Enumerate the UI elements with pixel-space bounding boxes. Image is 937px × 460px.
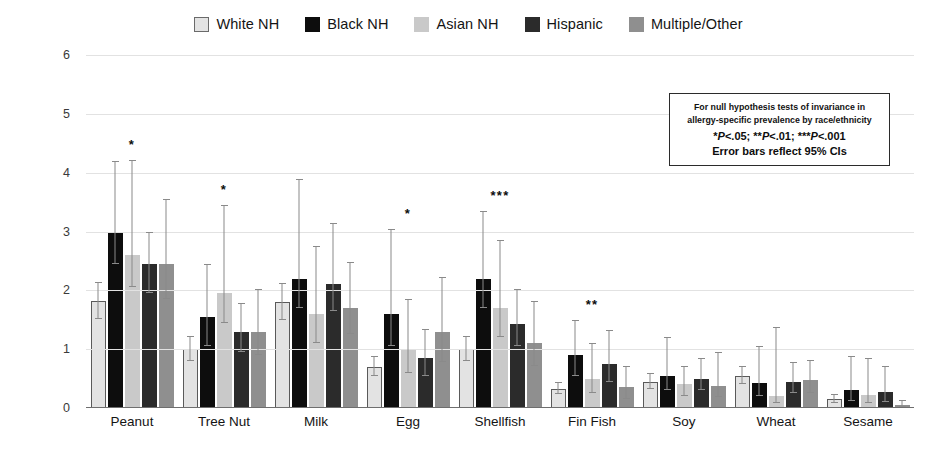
error-bar <box>282 283 283 319</box>
error-bar-cap-bottom <box>865 402 872 403</box>
error-bar-cap-top <box>221 205 228 206</box>
error-bar-cap-top <box>204 264 211 265</box>
error-bar-cap-bottom <box>589 392 596 393</box>
error-bar-cap-top <box>790 362 797 363</box>
error-bar <box>776 327 777 403</box>
error-bar-cap-top <box>129 160 136 161</box>
y-axis-tick-label: 3 <box>63 225 70 239</box>
legend-label: Asian NH <box>436 16 498 32</box>
legend-item-black-nh[interactable]: Black NH <box>305 16 388 32</box>
error-bar <box>500 240 501 337</box>
error-bar-cap-bottom <box>647 388 654 389</box>
error-bar-cap-bottom <box>95 318 102 319</box>
x-axis-label-tree-nut: Tree Nut <box>178 414 270 444</box>
y-axis-tick-label: 1 <box>63 342 70 356</box>
error-bar-cap-top <box>664 337 671 338</box>
legend-item-hispanic[interactable]: Hispanic <box>525 16 603 32</box>
error-bar-cap-top <box>514 289 521 290</box>
error-bar <box>885 366 886 402</box>
error-bar-cap-top <box>112 161 119 162</box>
error-bar-cap-top <box>555 382 562 383</box>
y-axis-tick-label: 2 <box>63 283 70 297</box>
error-bar-cap-bottom <box>347 333 354 334</box>
error-bar <box>408 299 409 373</box>
error-bar-cap-bottom <box>463 360 470 361</box>
annotation-line-1: For null hypothesis tests of invariance … <box>676 101 883 114</box>
error-bar <box>718 352 719 397</box>
error-bar-cap-bottom <box>807 392 814 393</box>
error-bar-cap-top <box>807 360 814 361</box>
error-bar-cap-bottom <box>715 396 722 397</box>
error-bar-cap-bottom <box>555 393 562 394</box>
error-bar <box>132 160 133 288</box>
error-bar-cap-bottom <box>790 392 797 393</box>
error-bar-cap-bottom <box>606 381 613 382</box>
error-bar <box>207 264 208 346</box>
error-bar <box>166 199 167 299</box>
error-bar-cap-top <box>238 303 245 304</box>
x-axis-label-fin-fish: Fin Fish <box>546 414 638 444</box>
error-bar-cap-top <box>480 211 487 212</box>
error-bar <box>558 382 559 395</box>
error-bar-cap-top <box>882 366 889 367</box>
x-axis-label-peanut: Peanut <box>86 414 178 444</box>
error-bar <box>149 232 150 294</box>
error-bar-cap-bottom <box>572 375 579 376</box>
error-bar-cap-top <box>531 301 538 302</box>
error-bar-cap-bottom <box>112 263 119 264</box>
error-bar-cap-top <box>279 283 286 284</box>
legend-swatch-asian-nh <box>414 17 429 32</box>
error-bar <box>684 366 685 397</box>
error-bar-cap-top <box>899 400 906 401</box>
error-bar-cap-top <box>371 356 378 357</box>
error-bar-cap-bottom <box>255 354 262 355</box>
error-bar-cap-top <box>463 336 470 337</box>
error-bar-cap-bottom <box>831 402 838 403</box>
error-bar-cap-top <box>715 352 722 353</box>
legend-item-asian-nh[interactable]: Asian NH <box>414 16 498 32</box>
legend-item-white-nh[interactable]: White NH <box>194 16 279 32</box>
error-bar-cap-bottom <box>313 342 320 343</box>
error-bar <box>868 358 869 403</box>
error-bar <box>258 289 259 355</box>
error-bar <box>425 329 426 376</box>
x-axis-label-egg: Egg <box>362 414 454 444</box>
grouped-bar-chart: White NHBlack NHAsian NHHispanicMultiple… <box>0 0 937 460</box>
x-axis-label-soy: Soy <box>638 414 730 444</box>
legend-swatch-black-nh <box>305 17 320 32</box>
error-bar-cap-top <box>439 277 446 278</box>
legend-item-multiple-other[interactable]: Multiple/Other <box>629 16 743 32</box>
x-axis-line <box>86 407 914 408</box>
error-bar <box>810 360 811 394</box>
error-bar-cap-top <box>296 179 303 180</box>
legend-swatch-hispanic <box>525 17 540 32</box>
gridline <box>86 232 914 233</box>
y-axis-tick-label: 5 <box>63 107 70 121</box>
significance-marker-egg: * <box>405 206 411 221</box>
error-bar-cap-bottom <box>238 351 245 352</box>
error-bar-cap-top <box>572 320 579 321</box>
y-axis-tick-label: 4 <box>63 166 70 180</box>
error-bar-cap-top <box>330 223 337 224</box>
legend-swatch-white-nh <box>194 17 209 32</box>
gridline <box>86 349 914 350</box>
annotation-box: For null hypothesis tests of invariance … <box>669 93 890 166</box>
error-bar-cap-top <box>606 330 613 331</box>
error-bar-cap-top <box>623 366 630 367</box>
error-bar <box>374 356 375 375</box>
error-bar <box>534 301 535 366</box>
significance-marker-peanut: * <box>129 137 135 152</box>
error-bar-cap-bottom <box>330 310 337 311</box>
error-bar-cap-top <box>163 199 170 200</box>
error-bar-cap-bottom <box>204 345 211 346</box>
error-bar-cap-bottom <box>899 406 906 407</box>
error-bar-cap-bottom <box>497 336 504 337</box>
error-bar-cap-bottom <box>739 383 746 384</box>
error-bar-cap-bottom <box>405 372 412 373</box>
x-axis-labels: PeanutTree NutMilkEggShellfishFin FishSo… <box>86 414 914 444</box>
error-bar-cap-top <box>848 356 855 357</box>
error-bar <box>626 366 627 400</box>
significance-marker-fin-fish: ** <box>586 297 599 312</box>
error-bar <box>517 289 518 346</box>
error-bar <box>241 303 242 352</box>
